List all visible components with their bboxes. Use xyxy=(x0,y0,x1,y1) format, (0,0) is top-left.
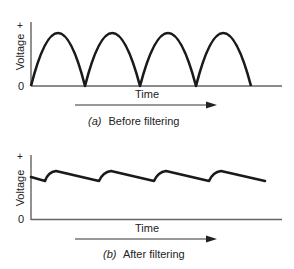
arrow-head-icon xyxy=(206,102,217,109)
x-axis-label-a: Time xyxy=(135,88,159,100)
caption-tag-a: (a) xyxy=(88,115,102,127)
rectification-diagram: + 0 Voltage Time (a) Before filtering + … xyxy=(0,0,294,269)
y-zero-mark-a: 0 xyxy=(18,80,24,92)
y-axis-label-b: Voltage xyxy=(14,170,26,207)
caption-a: (a) Before filtering xyxy=(88,115,179,127)
diagram-before-filtering: + 0 Voltage Time (a) Before filtering xyxy=(14,20,282,127)
diagram-after-filtering: + 0 Voltage Time (b) After filtering xyxy=(14,151,282,260)
caption-b: (b) After filtering xyxy=(103,248,185,260)
x-axis-label-b: Time xyxy=(135,222,159,234)
filtered-waveform xyxy=(31,171,265,181)
y-plus-mark-a: + xyxy=(17,20,23,31)
caption-text-b: After filtering xyxy=(123,248,185,260)
y-plus-mark-b: + xyxy=(17,151,23,162)
rectified-waveform xyxy=(31,33,251,86)
caption-text-a: Before filtering xyxy=(109,115,180,127)
caption-tag-b: (b) xyxy=(103,248,117,260)
y-zero-mark-b: 0 xyxy=(18,213,24,225)
arrow-head-icon xyxy=(206,236,217,243)
y-axis-label-a: Voltage xyxy=(14,34,26,71)
